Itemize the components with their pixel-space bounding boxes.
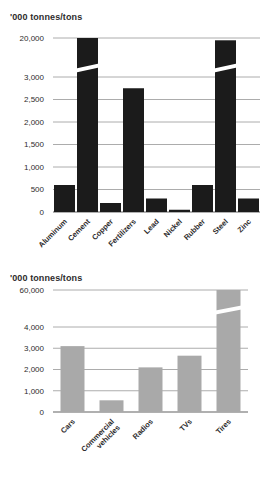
svg-text:0: 0 bbox=[40, 408, 45, 417]
svg-text:2,000: 2,000 bbox=[24, 365, 45, 374]
svg-text:TVs: TVs bbox=[178, 417, 194, 433]
svg-text:20,000: 20,000 bbox=[20, 34, 45, 43]
svg-text:Zinc: Zinc bbox=[236, 217, 253, 234]
infographic-canvas: '000 tonnes/tons 05001,0001,5002,0002,50… bbox=[0, 0, 275, 479]
svg-text:3,000: 3,000 bbox=[24, 344, 45, 353]
goods-chart-plot: 01,0002,0003,0004,00060,000CarsCommercia… bbox=[0, 265, 275, 479]
svg-text:500: 500 bbox=[31, 185, 45, 194]
svg-text:Lead: Lead bbox=[142, 217, 161, 236]
svg-text:Aluminum: Aluminum bbox=[37, 217, 70, 250]
svg-text:Commercialvehicles: Commercialvehicles bbox=[79, 417, 122, 460]
svg-text:60,000: 60,000 bbox=[20, 286, 45, 295]
svg-text:3,000: 3,000 bbox=[24, 73, 45, 82]
materials-chart-plot: 05001,0001,5002,0002,5003,00020,000Alumi… bbox=[0, 0, 275, 265]
svg-text:4,000: 4,000 bbox=[24, 323, 45, 332]
svg-text:1,000: 1,000 bbox=[24, 163, 45, 172]
svg-text:2,500: 2,500 bbox=[24, 95, 45, 104]
svg-text:Steel: Steel bbox=[211, 217, 230, 236]
svg-text:0: 0 bbox=[40, 208, 45, 217]
svg-text:2,000: 2,000 bbox=[24, 118, 45, 127]
svg-text:Nickel: Nickel bbox=[162, 217, 184, 239]
goods-bar-chart: '000 tonnes/tons 01,0002,0003,0004,00060… bbox=[0, 265, 275, 479]
materials-bar-chart: '000 tonnes/tons 05001,0001,5002,0002,50… bbox=[0, 0, 275, 265]
svg-text:Tires: Tires bbox=[214, 417, 233, 436]
svg-text:Cars: Cars bbox=[59, 417, 77, 435]
svg-text:1,000: 1,000 bbox=[24, 387, 45, 396]
svg-text:Radios: Radios bbox=[131, 417, 155, 441]
svg-text:Rubber: Rubber bbox=[182, 217, 207, 242]
svg-text:Cement: Cement bbox=[66, 217, 92, 243]
svg-text:1,500: 1,500 bbox=[24, 140, 45, 149]
